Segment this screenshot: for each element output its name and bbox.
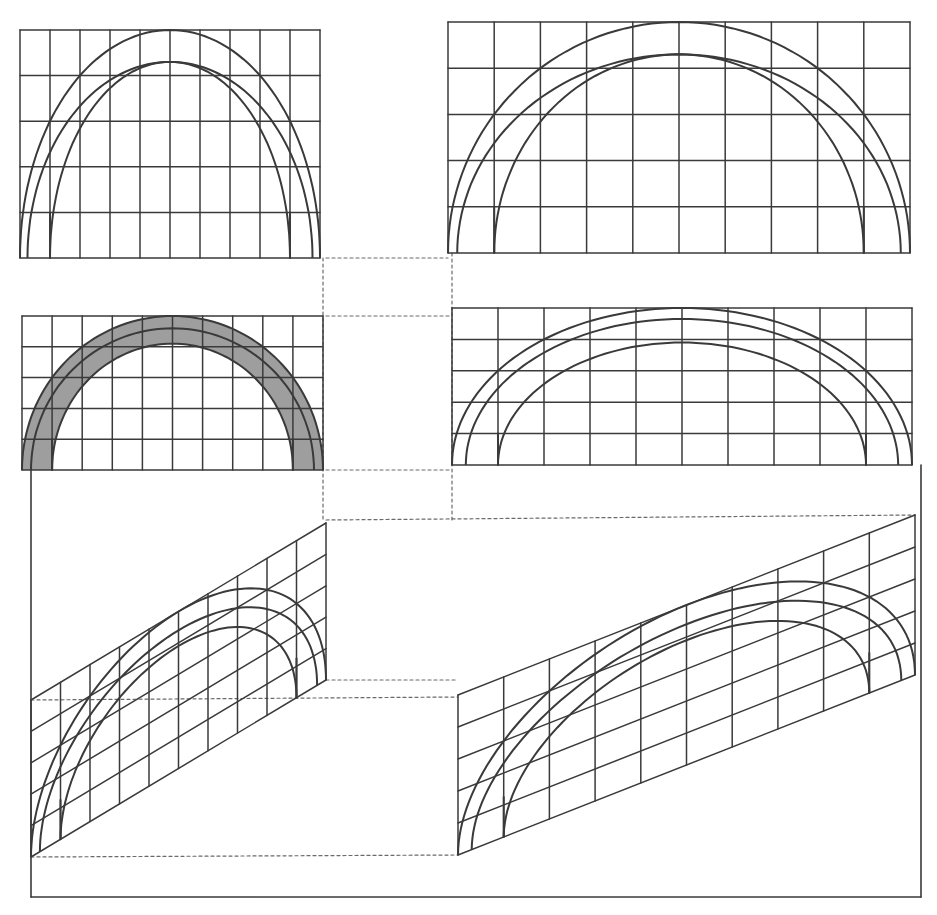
construction-line [31, 855, 458, 857]
panel-front-shaded [22, 316, 323, 470]
panel-front-narrow [20, 30, 320, 258]
panel-front-wide-low [452, 308, 912, 465]
panel-front-wide [448, 22, 910, 253]
outer-frame [31, 465, 921, 897]
arch-construction-diagram [0, 0, 937, 915]
construction-line [326, 515, 915, 520]
front-elevation-panels [20, 22, 912, 470]
oblique-oblique-narrow [31, 523, 326, 857]
oblique-oblique-wide [458, 515, 915, 855]
diagram-svg [0, 0, 937, 915]
oblique-projection-panels [31, 515, 915, 857]
